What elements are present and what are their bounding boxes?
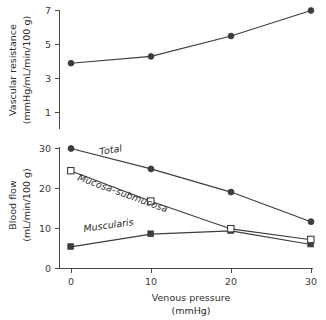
vr-point-30 <box>308 8 314 14</box>
bf-ytick-label-0: 0 <box>45 263 51 274</box>
vr-y-axis-title-line1: Vascular resistance <box>7 24 18 116</box>
bf-x-axis-title-line1: Venous pressure <box>152 292 231 303</box>
bf-x-axis-title-line2: (mmHg) <box>171 305 210 316</box>
vr-ytick-label-5: 5 <box>45 39 51 50</box>
vr-ytick-label-7: 7 <box>45 5 51 16</box>
bf-y-axis-title-line2: (mL/min/100 g) <box>21 168 32 241</box>
bf-total-point-0 <box>68 146 74 152</box>
vr-series-line <box>71 11 311 64</box>
bf-xtick-label-20: 20 <box>225 276 237 287</box>
vr-ytick-label-1: 1 <box>45 107 51 118</box>
bf-xtick-label-30: 30 <box>305 276 317 287</box>
vr-point-20 <box>228 33 234 39</box>
bf-y-axis-title-line1: Blood flow <box>7 180 18 230</box>
bf-series-label-mucosa: Mucosa–submucosa <box>76 172 169 215</box>
bf-muscularis-point-10 <box>148 231 154 237</box>
bf-total-point-30 <box>308 219 314 225</box>
bf-muscularis-point-0 <box>68 244 74 250</box>
bf-series-label-total: Total <box>99 143 123 157</box>
bf-series-label-muscularis: Muscularis <box>83 216 134 234</box>
vr-point-10 <box>148 54 154 60</box>
bf-ytick-label-20: 20 <box>39 183 51 194</box>
panel-blood-flow: 30 20 10 0 0 10 20 30 Blood flow (mL/min… <box>7 143 317 316</box>
bf-ytick-label-30: 30 <box>39 143 51 154</box>
bf-mucosa-point-0 <box>68 168 74 174</box>
vr-ytick-label-3: 3 <box>45 73 51 84</box>
figure-container: 7 5 3 1 Vascular resistance (mmHg/mL/min… <box>0 0 326 320</box>
bf-mucosa-point-20 <box>228 226 234 232</box>
chart-svg: 7 5 3 1 Vascular resistance (mmHg/mL/min… <box>0 0 326 320</box>
vr-y-axis-title-line2: (mmHg/mL/min/100 g) <box>21 16 32 124</box>
panel-vascular-resistance: 7 5 3 1 Vascular resistance (mmHg/mL/min… <box>7 5 314 129</box>
bf-total-point-20 <box>228 189 234 195</box>
bf-xtick-label-0: 0 <box>68 276 74 287</box>
bf-total-point-10 <box>148 166 154 172</box>
vr-point-0 <box>68 60 74 66</box>
bf-ytick-label-10: 10 <box>39 223 51 234</box>
bf-xtick-label-10: 10 <box>145 276 157 287</box>
bf-muscularis-line <box>71 231 311 247</box>
bf-mucosa-point-30 <box>308 236 314 242</box>
